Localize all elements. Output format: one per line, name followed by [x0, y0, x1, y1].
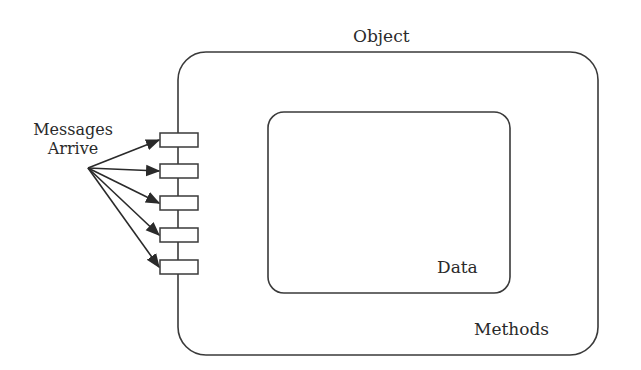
message-ports: [160, 133, 198, 274]
diagram-graphics: [0, 0, 641, 370]
messages-label: Messages Arrive: [28, 120, 118, 158]
message-arrow-4: [88, 168, 159, 235]
object-box: [178, 52, 598, 355]
messages-label-line1: Messages: [28, 120, 118, 139]
message-arrow-5: [88, 168, 159, 267]
object-label: Object: [353, 27, 410, 45]
message-arrow-3: [88, 168, 159, 203]
message-port-3: [160, 196, 198, 210]
object-diagram: Object Data Methods Messages Arrive: [0, 0, 641, 370]
methods-label: Methods: [474, 320, 549, 338]
message-arrows: [88, 140, 159, 267]
message-port-2: [160, 164, 198, 178]
message-port-5: [160, 260, 198, 274]
message-port-4: [160, 228, 198, 242]
message-port-1: [160, 133, 198, 147]
data-label: Data: [437, 258, 478, 276]
message-arrow-2: [88, 168, 159, 171]
messages-label-line2: Arrive: [28, 139, 118, 158]
